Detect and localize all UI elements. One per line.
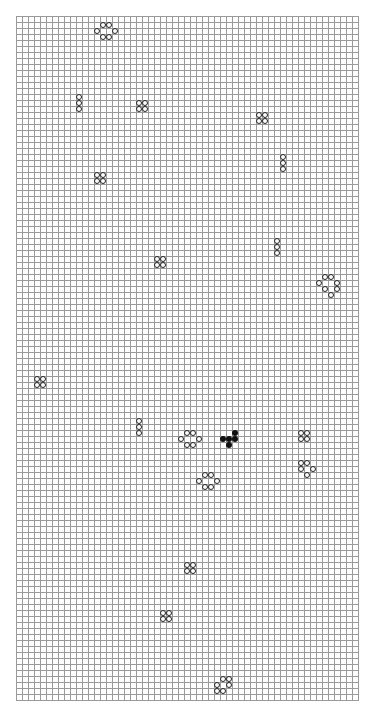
live-cell[interactable] xyxy=(160,262,166,268)
live-cell[interactable] xyxy=(328,274,334,280)
live-cell[interactable] xyxy=(190,442,196,448)
live-cell[interactable] xyxy=(40,382,46,388)
live-cell[interactable] xyxy=(310,466,316,472)
live-cell[interactable] xyxy=(208,484,214,490)
live-cell[interactable] xyxy=(220,688,226,694)
live-cell[interactable] xyxy=(304,436,310,442)
live-cell[interactable] xyxy=(328,292,334,298)
live-cell[interactable] xyxy=(322,286,328,292)
live-cell[interactable] xyxy=(142,106,148,112)
live-cell[interactable] xyxy=(106,22,112,28)
live-cell[interactable] xyxy=(112,28,118,34)
live-cell[interactable] xyxy=(190,568,196,574)
live-cell[interactable] xyxy=(334,286,340,292)
live-cell[interactable] xyxy=(214,478,220,484)
live-cell[interactable] xyxy=(178,436,184,442)
life-board[interactable] xyxy=(16,16,359,701)
live-cell[interactable] xyxy=(76,106,82,112)
live-cell[interactable] xyxy=(298,466,304,472)
live-cell[interactable] xyxy=(316,280,322,286)
live-cell[interactable] xyxy=(196,436,202,442)
live-cell[interactable] xyxy=(274,250,280,256)
live-cell[interactable] xyxy=(262,118,268,124)
live-cell[interactable] xyxy=(94,28,100,34)
live-cell[interactable] xyxy=(136,430,142,436)
live-cell[interactable] xyxy=(166,616,172,622)
live-cell[interactable] xyxy=(208,472,214,478)
highlighted-cell[interactable] xyxy=(232,436,238,442)
live-cell[interactable] xyxy=(190,430,196,436)
live-cell[interactable] xyxy=(304,460,310,466)
highlighted-cell[interactable] xyxy=(226,442,232,448)
live-cell[interactable] xyxy=(100,178,106,184)
live-cell[interactable] xyxy=(196,478,202,484)
live-cell[interactable] xyxy=(106,34,112,40)
live-cell[interactable] xyxy=(226,682,232,688)
live-cell[interactable] xyxy=(280,166,286,172)
live-cell[interactable] xyxy=(304,472,310,478)
